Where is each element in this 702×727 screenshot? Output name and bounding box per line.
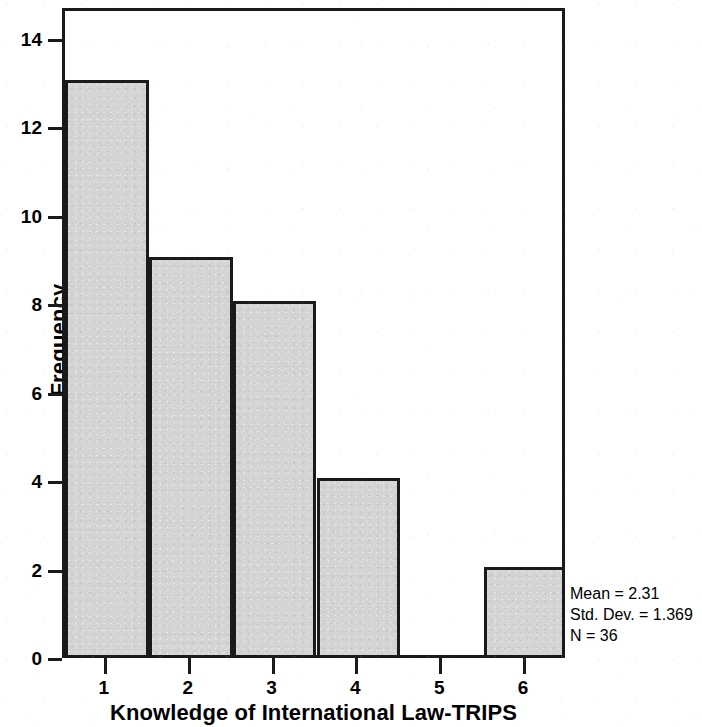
histogram-bar (149, 257, 233, 655)
x-axis-tick (188, 658, 191, 674)
histogram-bar (317, 478, 401, 655)
histogram-bar (484, 567, 565, 655)
x-axis-tick (104, 658, 107, 674)
x-axis-tick (272, 658, 275, 674)
plot-area (62, 8, 565, 658)
x-axis-tick-label: 5 (434, 678, 445, 697)
y-axis-tick-label: 10 (0, 206, 42, 225)
histogram-bar (65, 80, 149, 655)
y-axis-tick-label: 14 (0, 29, 42, 48)
y-axis-tick (48, 658, 62, 661)
x-axis-title: Knowledge of International Law-TRIPS (62, 700, 565, 726)
y-axis-tick (48, 304, 62, 307)
y-axis-tick-label: 12 (0, 118, 42, 137)
std-dev-label: Std. Dev. = 1.369 (570, 604, 693, 625)
bars-layer (65, 11, 562, 655)
x-axis-tick-label: 4 (350, 678, 361, 697)
y-axis-tick (48, 216, 62, 219)
y-axis-tick-label: 8 (0, 295, 42, 314)
x-axis-tick-label: 6 (518, 678, 529, 697)
y-axis-tick (48, 393, 62, 396)
bar-texture (487, 570, 565, 655)
y-axis-tick-label: 4 (0, 472, 42, 491)
x-axis-tick-label: 1 (99, 678, 110, 697)
y-axis-tick (48, 127, 62, 130)
x-axis-tick (355, 658, 358, 674)
x-axis-tick-label: 2 (182, 678, 193, 697)
mean-label: Mean = 2.31 (570, 583, 693, 604)
x-axis-tick (523, 658, 526, 674)
bar-texture (68, 83, 146, 655)
bar-texture (152, 260, 230, 655)
sample-size-label: N = 36 (570, 625, 693, 646)
y-axis-tick (48, 39, 62, 42)
histogram-bar (233, 301, 317, 655)
x-axis-tick (439, 658, 442, 674)
statistics-annotation: Mean = 2.31 Std. Dev. = 1.369 N = 36 (570, 583, 693, 646)
y-axis-tick-label: 6 (0, 383, 42, 402)
bar-texture (320, 481, 398, 655)
x-axis-tick-label: 3 (266, 678, 277, 697)
y-axis-tick (48, 570, 62, 573)
y-axis-tick (48, 481, 62, 484)
bar-texture (236, 304, 314, 655)
histogram-figure: Frequency 02468101214 123456 Knowledge o… (0, 0, 702, 727)
y-axis-tick-label: 2 (0, 560, 42, 579)
y-axis-tick-label: 0 (0, 649, 42, 668)
